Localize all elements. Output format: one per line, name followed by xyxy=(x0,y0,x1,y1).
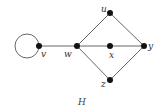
edge-w-z xyxy=(77,46,110,80)
node-u xyxy=(107,10,113,16)
node-z xyxy=(107,77,113,83)
node-x xyxy=(107,43,113,49)
edge-u-y xyxy=(110,13,144,46)
node-y xyxy=(141,43,147,49)
label-w: w xyxy=(64,49,72,59)
label-x: x xyxy=(109,50,114,60)
node-w xyxy=(74,43,80,49)
label-v: v xyxy=(41,49,46,59)
graph-diagram: v w u x y z H xyxy=(0,0,162,112)
node-labels: v w u x y z xyxy=(41,4,154,89)
nodes xyxy=(36,10,147,83)
label-u: u xyxy=(101,4,107,14)
edge-loop-v xyxy=(15,34,39,58)
graph-title: H xyxy=(77,97,86,107)
edge-z-y xyxy=(110,46,144,80)
edge-w-u xyxy=(77,13,110,46)
label-z: z xyxy=(100,79,106,89)
label-y: y xyxy=(147,41,154,51)
